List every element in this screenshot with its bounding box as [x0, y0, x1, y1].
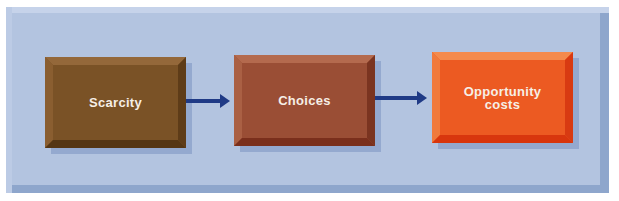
node-opportunity-costs: Opportunity costs — [432, 52, 573, 143]
arrow-icon — [375, 96, 419, 100]
arrow-icon — [186, 99, 222, 103]
node-choices: Choices — [234, 55, 375, 146]
node-label-line2: costs — [485, 98, 520, 111]
node-label-line1: Opportunity — [464, 85, 542, 98]
node-label: Scarcity — [53, 65, 178, 140]
node-label: Opportunity costs — [440, 60, 565, 135]
node-scarcity: Scarcity — [45, 57, 186, 148]
node-label: Choices — [242, 63, 367, 138]
